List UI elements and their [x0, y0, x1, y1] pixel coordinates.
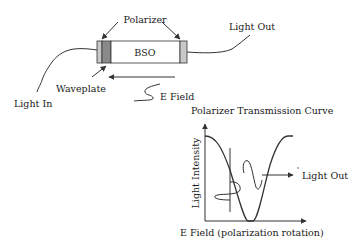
waveplate-label: Waveplate	[56, 83, 106, 94]
efield-wave-icon	[134, 84, 160, 101]
output-polarizer	[180, 41, 187, 63]
transmission-plot: Polarizer Transmission Curve Light Inten…	[180, 105, 348, 238]
y-axis-label: Light Intensity	[190, 137, 201, 209]
waveplate-arrow	[92, 66, 106, 77]
diagram-canvas: BSO Polarizer Waveplate Light In Light O…	[0, 0, 359, 248]
polarizer-arrow-left	[102, 22, 118, 39]
waveplate	[102, 41, 111, 63]
output-modulation-wave	[243, 161, 262, 189]
transmission-curve	[205, 136, 293, 221]
x-axis-label: E Field (polarization rotation)	[180, 227, 324, 238]
polarizer-arrow-right	[162, 22, 180, 39]
light-out-label: Light Out	[229, 21, 275, 32]
tick-mark	[297, 167, 298, 168]
plot-light-out-label: Light Out	[302, 170, 348, 181]
fiber-out	[187, 35, 250, 53]
plot-title: Polarizer Transmission Curve	[191, 105, 334, 116]
light-in-label: Light In	[14, 98, 52, 109]
polarizer-label: Polarizer	[123, 14, 167, 25]
bso-device: BSO	[97, 41, 187, 63]
input-polarizer	[97, 41, 102, 63]
crystal-label: BSO	[134, 47, 155, 58]
efield-label: E Field	[160, 91, 194, 102]
